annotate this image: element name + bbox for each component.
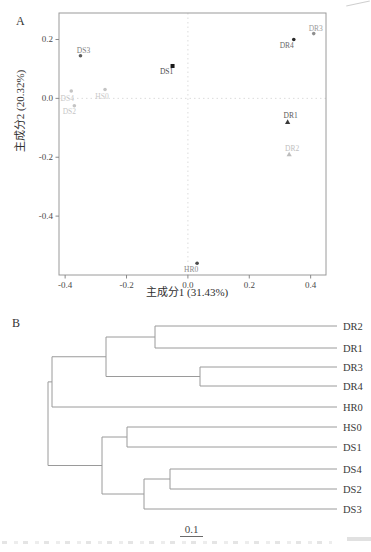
pca-scatter-plot: -0.4-0.20.00.20.40.20.0-0.2-0.4DS3DS1DS4… [0, 0, 371, 310]
data-point-label-DR2: DR2 [285, 144, 299, 153]
data-point-label-DS2: DS2 [63, 107, 77, 116]
dendro-leaf-label-HS0: HS0 [343, 422, 362, 433]
dendro-leaf-label-DR2: DR2 [343, 321, 363, 332]
dendro-leaf-label-DR4: DR4 [343, 381, 364, 392]
data-point-label-DR1: DR1 [284, 111, 298, 120]
pca-x-axis-label: 主成分1 (31.43%) [107, 283, 267, 299]
data-point-label-DR4: DR4 [280, 41, 294, 50]
dendro-leaf-label-DS4: DS4 [343, 464, 362, 475]
data-point-DS4 [69, 89, 73, 93]
dendrogram: DR2DR1DR3DR4HR0HS0DS1DS4DS2DS3 [0, 310, 371, 542]
dendro-leaf-label-DS1: DS1 [343, 442, 362, 453]
x-tick-label: 0.4 [305, 280, 317, 290]
y-tick-label: -0.2 [39, 152, 53, 162]
dendro-leaf-label-DR1: DR1 [343, 343, 363, 354]
y-tick-label: 0.0 [42, 93, 54, 103]
dendro-leaf-label-DS2: DS2 [343, 484, 362, 495]
dendro-leaf-label-DR3: DR3 [343, 362, 363, 373]
data-point-label-DR3: DR3 [309, 24, 323, 33]
dendro-leaf-label-DS3: DS3 [343, 504, 362, 515]
data-point-label-DS3: DS3 [77, 46, 91, 55]
scale-bar-value: 0.1 [185, 523, 199, 535]
data-point-HS0 [103, 88, 107, 92]
data-point-label-DS4: DS4 [61, 94, 75, 103]
data-point-label-HR0: HR0 [184, 265, 198, 274]
dendro-leaf-label-HR0: HR0 [343, 402, 363, 413]
dendrogram-scale-bar: 0.1 [180, 522, 203, 537]
y-tick-label: -0.4 [39, 211, 54, 221]
cropped-caption-artifact [2, 541, 332, 544]
y-tick-label: 0.2 [42, 34, 53, 44]
figure-canvas: A -0.4-0.20.00.20.40.20.0-0.2-0.4DS3DS1D… [0, 0, 371, 552]
data-point-label-DS1: DS1 [160, 67, 174, 76]
pca-y-axis-label: 主成分2 (20.32%) [11, 31, 27, 191]
cropped-caption-artifact-right [347, 537, 371, 541]
x-tick-label: -0.4 [58, 280, 73, 290]
data-point-label-HS0: HS0 [95, 92, 109, 101]
